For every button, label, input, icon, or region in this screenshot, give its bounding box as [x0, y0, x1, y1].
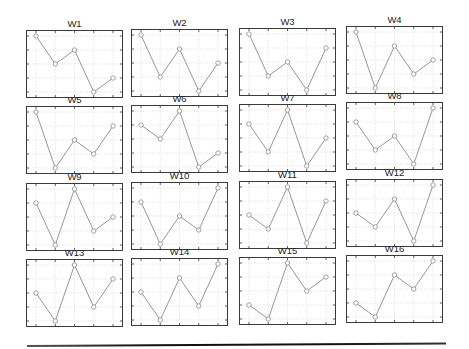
panel-title: W12: [346, 168, 443, 178]
data-point-marker: [53, 243, 57, 247]
data-point-marker: [285, 260, 289, 264]
data-point-marker: [216, 151, 220, 155]
data-point-marker: [305, 87, 309, 91]
data-point-marker: [197, 165, 201, 169]
data-point-marker: [431, 259, 435, 263]
panel-title: W10: [131, 171, 228, 181]
data-point-marker: [324, 274, 328, 278]
line-chart-panel: [346, 102, 443, 170]
data-point-marker: [53, 62, 57, 66]
data-point-marker: [354, 120, 358, 124]
line-chart-panel: [346, 26, 443, 94]
data-point-marker: [412, 162, 416, 166]
panel-title: W6: [131, 94, 228, 104]
data-point-marker: [247, 212, 251, 216]
panel-title: W1: [26, 19, 123, 29]
data-point-marker: [247, 121, 251, 125]
panel-title: W5: [26, 95, 123, 105]
panel-title: W8: [346, 91, 443, 101]
data-point-marker: [373, 86, 377, 90]
data-point-marker: [305, 163, 309, 167]
data-point-marker: [431, 106, 435, 110]
data-point-marker: [285, 184, 289, 188]
data-point-marker: [285, 107, 289, 111]
panel-title: W11: [239, 170, 336, 180]
data-point-marker: [216, 186, 220, 190]
data-point-marker: [197, 304, 201, 308]
data-point-marker: [324, 135, 328, 139]
data-point-marker: [34, 34, 38, 38]
data-point-marker: [177, 47, 181, 51]
data-point-marker: [139, 123, 143, 127]
data-point-marker: [305, 240, 309, 244]
data-point-marker: [34, 201, 38, 205]
data-point-marker: [266, 316, 270, 320]
line-chart-panel: [131, 29, 228, 97]
data-point-marker: [177, 214, 181, 218]
data-point-marker: [197, 89, 201, 93]
panel-title: W2: [131, 18, 228, 28]
panel-title: W15: [239, 246, 336, 256]
line-chart-panel: [131, 105, 228, 173]
data-point-marker: [392, 44, 396, 48]
line-chart-panel: [239, 257, 336, 325]
small-multiples-grid: W1W2W3W4W5W6W7W8W9W10W11W12W13W14W15W16: [0, 0, 469, 349]
data-point-marker: [354, 30, 358, 34]
line-chart-panel: [131, 258, 228, 326]
data-point-marker: [354, 211, 358, 215]
line-chart-panel: [26, 183, 123, 251]
data-point-marker: [72, 187, 76, 191]
data-point-marker: [34, 110, 38, 114]
panel-title: W9: [26, 172, 123, 182]
line-chart-panel: [239, 181, 336, 249]
data-point-marker: [373, 315, 377, 319]
panel-title: W13: [26, 248, 123, 258]
data-point-marker: [158, 75, 162, 79]
data-point-marker: [285, 59, 289, 63]
line-chart-panel: [239, 28, 336, 96]
panel-title: W7: [239, 93, 336, 103]
data-point-marker: [72, 263, 76, 267]
data-point-marker: [111, 277, 115, 281]
data-point-marker: [139, 33, 143, 37]
line-chart-panel: [131, 182, 228, 250]
data-point-marker: [412, 72, 416, 76]
line-chart-panel: [346, 179, 443, 247]
data-point-marker: [53, 166, 57, 170]
line-chart-panel: [26, 106, 123, 174]
data-point-marker: [197, 228, 201, 232]
data-point-marker: [373, 225, 377, 229]
data-point-marker: [92, 305, 96, 309]
data-point-marker: [92, 152, 96, 156]
data-point-marker: [139, 290, 143, 294]
data-point-marker: [111, 124, 115, 128]
panel-title: W16: [346, 244, 443, 254]
data-point-marker: [431, 183, 435, 187]
data-point-marker: [324, 198, 328, 202]
data-point-marker: [412, 287, 416, 291]
data-point-marker: [266, 149, 270, 153]
line-chart-panel: [239, 104, 336, 172]
data-point-marker: [373, 148, 377, 152]
data-point-marker: [392, 197, 396, 201]
data-point-marker: [53, 319, 57, 323]
data-point-marker: [158, 137, 162, 141]
data-point-marker: [266, 226, 270, 230]
data-point-marker: [92, 90, 96, 94]
data-point-marker: [392, 273, 396, 277]
data-point-marker: [392, 134, 396, 138]
panel-title: W14: [131, 247, 228, 257]
data-point-marker: [324, 45, 328, 49]
line-chart-panel: [26, 259, 123, 327]
panel-title: W4: [346, 15, 443, 25]
line-chart-panel: [26, 30, 123, 98]
data-point-marker: [412, 239, 416, 243]
data-point-marker: [72, 138, 76, 142]
data-point-marker: [177, 109, 181, 113]
data-point-marker: [92, 229, 96, 233]
data-point-marker: [216, 262, 220, 266]
data-point-marker: [34, 291, 38, 295]
data-point-marker: [111, 215, 115, 219]
data-point-marker: [177, 276, 181, 280]
data-point-marker: [158, 242, 162, 246]
